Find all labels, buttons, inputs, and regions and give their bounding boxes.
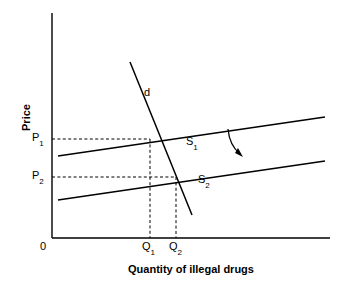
supply-curve-s2-label-sub: 2 bbox=[205, 181, 209, 190]
quantity-tick-q2: Q2 bbox=[169, 241, 182, 255]
quantity-tick-q1: Q1 bbox=[142, 241, 155, 255]
supply-demand-figure: Price Quantity of illegal drugs 0 P1 P2 … bbox=[0, 0, 347, 288]
quantity-tick-q2-main: Q bbox=[169, 240, 178, 252]
supply-curve-s2-label: S2 bbox=[198, 174, 210, 188]
supply-curve-s1-label: S1 bbox=[186, 136, 198, 150]
price-tick-p2-sub: 2 bbox=[39, 177, 43, 186]
price-tick-p1: P1 bbox=[32, 132, 44, 146]
quantity-tick-q2-sub: 2 bbox=[178, 248, 182, 257]
supply-curve-s1-label-sub: 1 bbox=[193, 143, 197, 152]
quantity-tick-q1-sub: 1 bbox=[151, 248, 155, 257]
quantity-tick-q1-main: Q bbox=[142, 240, 151, 252]
price-tick-p2: P2 bbox=[32, 170, 44, 184]
demand-curve-label: d bbox=[144, 87, 150, 98]
supply-curve-s2 bbox=[58, 161, 325, 200]
price-tick-p1-sub: 1 bbox=[39, 139, 43, 148]
x-axis-title: Quantity of illegal drugs bbox=[52, 264, 330, 275]
y-axis-title: Price bbox=[21, 88, 32, 148]
origin-label: 0 bbox=[40, 241, 46, 252]
